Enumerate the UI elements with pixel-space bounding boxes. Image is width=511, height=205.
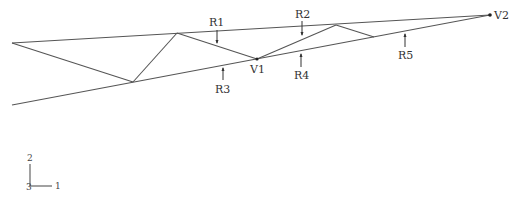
load-arrow-r5 — [404, 33, 407, 47]
load-arrow-r2 — [301, 21, 304, 36]
label-v2: V2 — [493, 9, 509, 22]
label-r3: R3 — [215, 83, 230, 96]
load-arrow-r4 — [300, 53, 303, 67]
label-r4: R4 — [294, 69, 309, 82]
load-arrow-r3 — [222, 67, 225, 80]
label-r1: R1 — [209, 16, 224, 29]
label-r2: R2 — [295, 8, 310, 21]
web-member-1 — [12, 43, 133, 82]
axis-2-label: 2 — [27, 153, 33, 163]
truss-diagram: R1 R2 R3 R4 R5 V1 V2 2 1 3 — [0, 0, 511, 205]
load-arrow-r1 — [216, 30, 219, 44]
axis-3-label: 3 — [26, 182, 32, 192]
label-r5: R5 — [398, 49, 413, 62]
label-v1: V1 — [249, 63, 265, 76]
web-member-4 — [257, 25, 336, 59]
node-v1 — [255, 57, 258, 60]
axis-1-label: 1 — [55, 181, 61, 191]
coordinate-triad: 2 1 3 — [26, 153, 61, 192]
node-v2 — [488, 13, 492, 17]
web-member-5 — [336, 25, 374, 37]
